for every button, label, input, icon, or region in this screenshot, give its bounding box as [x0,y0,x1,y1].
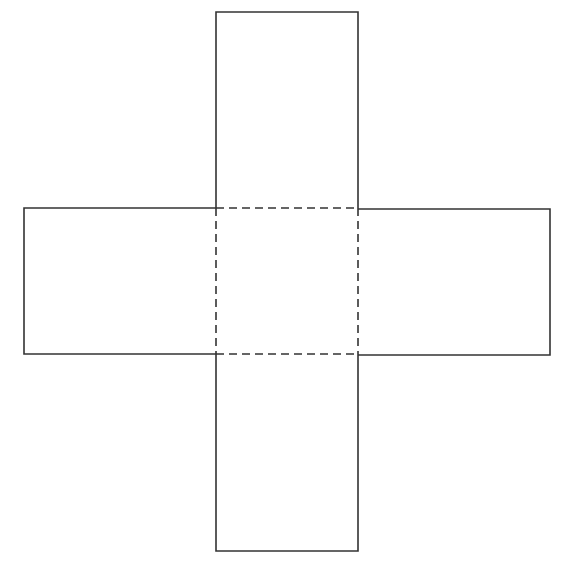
face-left [24,208,216,354]
faces-group [24,12,550,551]
cube-net-diagram [0,0,575,577]
face-bottom [216,354,358,551]
face-right [358,209,550,355]
face-top [216,12,358,208]
